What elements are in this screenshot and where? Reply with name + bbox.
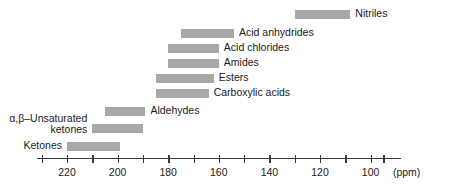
range-label: Carboxylic acids [214,86,290,98]
range-bar [156,74,214,83]
x-axis-tick [118,155,119,163]
x-axis-tick [219,155,220,163]
range-row: Esters [0,74,453,86]
x-axis-tick-label: 100 [351,166,391,178]
range-bar [67,142,120,151]
range-row: Acid chlorides [0,44,453,56]
range-label: Acid anhydrides [239,26,314,38]
range-bar [168,44,219,53]
range-label: Amides [224,56,259,68]
x-axis-tick [194,155,195,163]
chart-plot-area: NitrilesAcid anhydridesAcid chloridesAmi… [0,0,453,187]
range-row: Carboxylic acids [0,89,453,101]
x-axis-tick-label: 200 [98,166,138,178]
range-label: Ketones [23,139,62,151]
range-bar [181,29,234,38]
range-row: α,β–Unsaturatedketones [0,124,453,136]
x-axis-tick-label: 160 [199,166,239,178]
nmr-chemical-shift-chart: NitrilesAcid anhydridesAcid chloridesAmi… [0,0,453,187]
x-axis-tick [295,155,296,163]
x-axis-tick [244,155,245,163]
x-axis-tick [42,155,43,163]
range-label-line: ketones [9,124,87,135]
x-axis-tick [269,155,270,163]
range-row: Amides [0,59,453,71]
range-label: Nitriles [355,7,387,19]
range-label: Esters [219,71,249,83]
x-axis-tick-label: 140 [249,166,289,178]
x-axis-tick-label: 180 [148,166,188,178]
x-axis-tick [320,155,321,163]
range-bar [168,59,219,68]
x-axis-tick [143,155,144,163]
range-row: Nitriles [0,10,453,22]
x-axis-tick [383,155,384,163]
x-axis-tick [371,155,372,163]
range-bar [295,10,351,19]
x-axis-tick [67,155,68,163]
range-bar [92,124,143,133]
range-bar [105,107,145,116]
range-label: α,β–Unsaturatedketones [9,113,87,135]
x-axis-tick [345,155,346,163]
x-axis-tick [92,155,93,163]
range-label: Acid chlorides [224,41,289,53]
x-axis-tick-label: 220 [47,166,87,178]
range-row: Ketones [0,142,453,154]
range-label: Aldehydes [150,104,199,116]
x-axis-tick-label: 120 [300,166,340,178]
range-bar [156,89,209,98]
x-axis-unit-label: (ppm) [393,166,420,178]
range-row: Acid anhydrides [0,29,453,41]
x-axis-tick [168,155,169,163]
